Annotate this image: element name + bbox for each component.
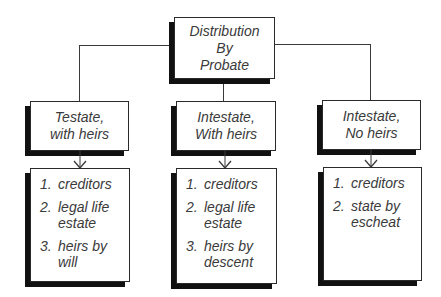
list-item: 2. state by escheat	[333, 198, 417, 230]
root-node-distribution-by-probate: Distribution By Probate	[174, 17, 275, 79]
item-text: state by escheat	[351, 198, 417, 230]
item-number: 2.	[333, 198, 351, 230]
heading-line-1: Intestate,	[197, 109, 255, 126]
item-text: legal life estate	[204, 199, 272, 231]
item-number: 2.	[40, 199, 58, 231]
item-text: heirs by descent	[204, 238, 272, 270]
heading-line-1: Testate,	[55, 109, 104, 126]
item-text: creditors	[204, 176, 272, 192]
list-item: 3. heirs by will	[40, 238, 125, 270]
connector-right-vertical	[370, 44, 371, 100]
item-text: creditors	[351, 175, 417, 191]
node-testate-with-heirs: Testate, with heirs	[30, 101, 129, 151]
priority-list-intestate-with-heirs: 1. creditors 2. legal life estate 3. hei…	[176, 168, 277, 284]
item-number: 3.	[186, 238, 204, 270]
item-number: 1.	[40, 176, 58, 192]
root-line-2: By	[216, 40, 232, 57]
list-item: 3. heirs by descent	[186, 238, 272, 270]
item-number: 1.	[333, 175, 351, 191]
root-line-1: Distribution	[189, 23, 259, 40]
arrow-down-icon	[364, 149, 378, 169]
priority-list-testate-with-heirs: 1. creditors 2. legal life estate 3. hei…	[30, 168, 130, 282]
root-line-3: Probate	[200, 57, 249, 74]
heading-line-1: Intestate,	[343, 108, 401, 125]
connector-left-horizontal	[79, 45, 175, 46]
item-number: 3.	[40, 238, 58, 270]
list-item: 2. legal life estate	[186, 199, 272, 231]
item-number: 2.	[186, 199, 204, 231]
list-item: 1. creditors	[186, 176, 272, 192]
arrow-down-icon	[73, 150, 87, 170]
item-number: 1.	[186, 176, 204, 192]
connector-left-vertical	[79, 45, 80, 101]
item-text: legal life estate	[58, 199, 125, 231]
connector-middle-vertical	[223, 78, 224, 101]
list-item: 1. creditors	[40, 176, 125, 192]
node-intestate-no-heirs: Intestate, No heirs	[322, 100, 421, 150]
priority-list-intestate-no-heirs: 1. creditors 2. state by escheat	[323, 167, 422, 281]
heading-line-2: With heirs	[195, 126, 257, 143]
connector-right-horizontal	[274, 44, 371, 45]
list-item: 2. legal life estate	[40, 199, 125, 231]
item-text: heirs by will	[58, 238, 125, 270]
heading-line-2: No heirs	[345, 125, 397, 142]
item-text: creditors	[58, 176, 125, 192]
heading-line-2: with heirs	[50, 126, 109, 143]
arrow-down-icon	[218, 150, 232, 170]
node-intestate-with-heirs: Intestate, With heirs	[176, 101, 276, 151]
list-item: 1. creditors	[333, 175, 417, 191]
